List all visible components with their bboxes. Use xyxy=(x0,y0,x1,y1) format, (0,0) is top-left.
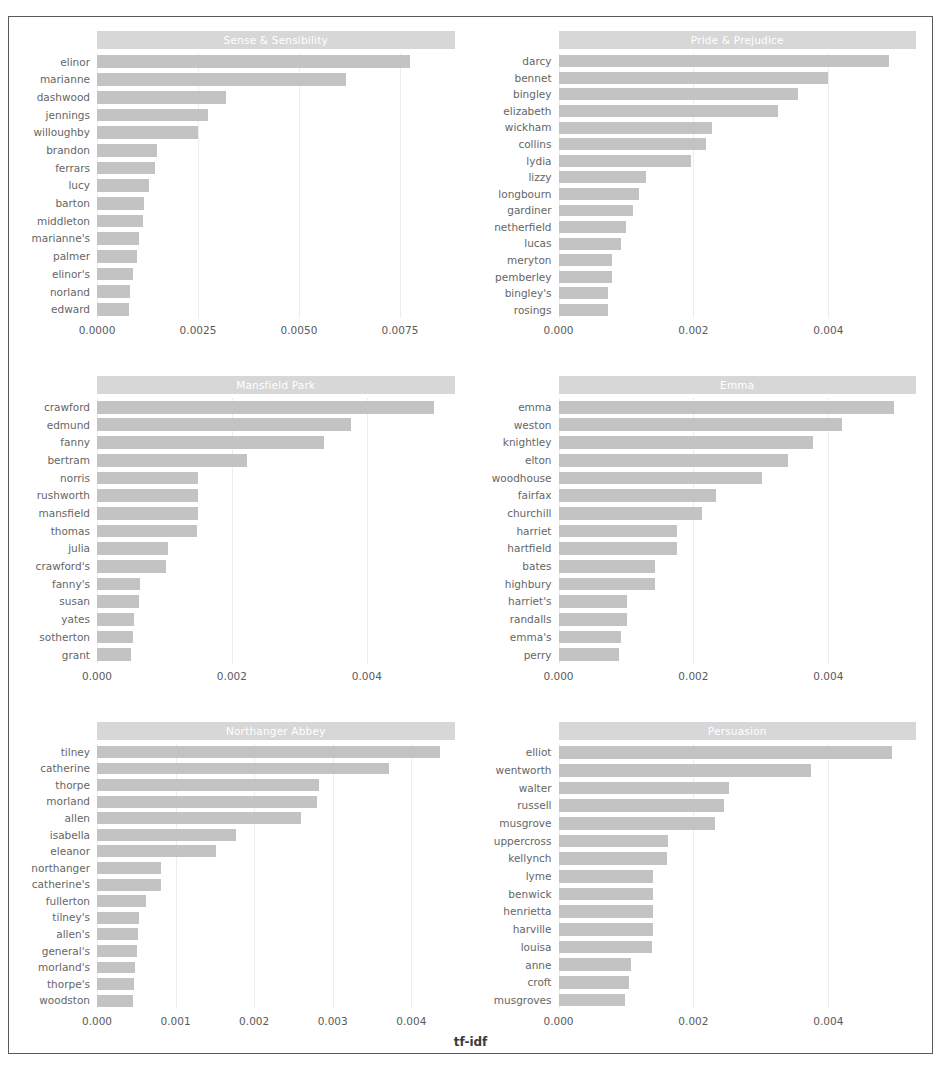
bar xyxy=(97,613,134,626)
facet-strip-label: Emma xyxy=(720,379,754,391)
bar-row: marianne xyxy=(97,71,455,89)
bar-row: willoughby xyxy=(97,124,455,142)
x-tick-label: 0.002 xyxy=(678,1015,708,1027)
bar-row: palmer xyxy=(97,248,455,266)
x-tick-label: 0.000 xyxy=(82,670,112,682)
y-tick-label: harriet's xyxy=(508,596,551,607)
y-tick-label: bennet xyxy=(514,73,551,84)
bar xyxy=(559,155,691,167)
y-tick-label: crawford's xyxy=(36,561,90,572)
bar-row: harriet's xyxy=(559,593,917,611)
y-tick-label: bingley xyxy=(513,89,552,100)
y-tick-label: rosings xyxy=(514,305,552,316)
bar xyxy=(97,507,198,520)
bar-row: bertram xyxy=(97,451,455,469)
x-axis: 0.0000.0020.004 xyxy=(559,324,917,338)
plot-area: elliotwentworthwalterrussellmusgroveuppe… xyxy=(559,744,917,1009)
bar-row: highbury xyxy=(559,575,917,593)
x-tick-label: 0.002 xyxy=(678,670,708,682)
x-tick-label: 0.002 xyxy=(239,1015,269,1027)
y-tick-label: fanny xyxy=(60,437,90,448)
y-tick-label: uppercross xyxy=(494,836,552,847)
facet-panel: Sense & Sensibilityelinormariannedashwoo… xyxy=(9,17,471,362)
bar xyxy=(559,205,633,217)
bar-row: allen xyxy=(97,810,455,827)
bar-row: musgrove xyxy=(559,814,917,832)
figure-frame: Sense & Sensibilityelinormariannedashwoo… xyxy=(8,16,933,1054)
x-tick-label: 0.0050 xyxy=(281,324,318,336)
y-tick-label: woodhouse xyxy=(492,473,552,484)
bar xyxy=(97,962,135,974)
bar-row: elliot xyxy=(559,744,917,762)
bar-row: croft xyxy=(559,974,917,992)
y-tick-label: crawford xyxy=(44,402,90,413)
bar-row: marianne's xyxy=(97,230,455,248)
bar-row: bates xyxy=(559,558,917,576)
bar-row: allen's xyxy=(97,926,455,943)
bar xyxy=(559,454,788,467)
y-tick-label: edmund xyxy=(47,420,90,431)
bar-row: anne xyxy=(559,956,917,974)
y-tick-label: lucy xyxy=(68,180,90,191)
bar xyxy=(97,197,144,210)
y-tick-label: grant xyxy=(62,650,90,661)
bar xyxy=(97,162,155,175)
bar-rows: tilneycatherinethorpemorlandallenisabell… xyxy=(97,744,455,1009)
y-tick-label: bertram xyxy=(47,455,90,466)
bar xyxy=(559,905,653,918)
bar xyxy=(97,978,134,990)
bar-row: rosings xyxy=(559,302,917,319)
bar-row: wickham xyxy=(559,119,917,136)
bar xyxy=(97,542,168,555)
bar xyxy=(559,138,706,150)
bar-row: tilney xyxy=(97,744,455,761)
y-tick-label: thomas xyxy=(51,526,90,537)
bar-row: randalls xyxy=(559,611,917,629)
y-tick-label: ferrars xyxy=(55,163,90,174)
y-tick-label: bingley's xyxy=(505,288,552,299)
bar-row: pemberley xyxy=(559,269,917,286)
y-tick-label: longbourn xyxy=(498,189,551,200)
bar-row: thorpe xyxy=(97,777,455,794)
bar xyxy=(559,958,631,971)
bar-row: perry xyxy=(559,646,917,664)
y-tick-label: henrietta xyxy=(503,906,551,917)
facet-strip: Pride & Prejudice xyxy=(559,31,917,49)
x-tick-label: 0.002 xyxy=(217,670,247,682)
bar xyxy=(559,631,622,644)
bar-row: walter xyxy=(559,779,917,797)
y-tick-label: tilney xyxy=(61,747,90,758)
bar xyxy=(97,560,166,573)
bar-rows: elliotwentworthwalterrussellmusgroveuppe… xyxy=(559,744,917,1009)
bar-row: longbourn xyxy=(559,186,917,203)
bar xyxy=(559,287,609,299)
bar xyxy=(97,779,319,791)
y-tick-label: gardiner xyxy=(507,205,551,216)
bar xyxy=(559,648,620,661)
y-tick-label: brandon xyxy=(46,145,90,156)
x-tick-label: 0.000 xyxy=(543,670,573,682)
bar-row: harville xyxy=(559,921,917,939)
bar xyxy=(97,418,351,431)
y-tick-label: knightley xyxy=(503,437,552,448)
bar xyxy=(97,812,301,824)
y-tick-label: morland's xyxy=(38,962,90,973)
facet-panel: Mansfield Parkcrawfordedmundfannybertram… xyxy=(9,362,471,707)
x-axis: 0.0000.0010.0020.0030.004 xyxy=(97,1015,455,1029)
y-tick-label: musgroves xyxy=(494,995,552,1006)
bar-row: crawford xyxy=(97,398,455,416)
bar xyxy=(97,631,133,644)
bar xyxy=(559,418,842,431)
y-tick-label: lyme xyxy=(526,871,552,882)
y-tick-label: fullerton xyxy=(46,896,90,907)
facet-strip-label: Sense & Sensibility xyxy=(224,34,328,46)
bar xyxy=(97,55,410,68)
y-tick-label: darcy xyxy=(522,56,551,67)
bar xyxy=(559,122,713,134)
x-tick-label: 0.0000 xyxy=(79,324,116,336)
bar xyxy=(97,578,140,591)
x-tick-label: 0.001 xyxy=(161,1015,191,1027)
y-tick-label: collins xyxy=(518,139,551,150)
y-tick-label: elliot xyxy=(526,747,552,758)
y-tick-label: jennings xyxy=(46,110,90,121)
